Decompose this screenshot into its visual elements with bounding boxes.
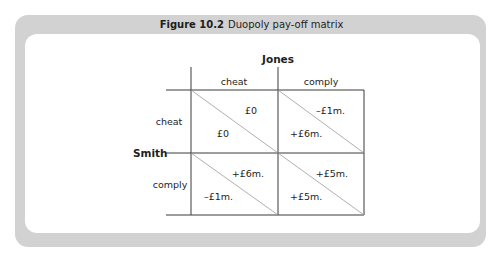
payoff-smith-cheat-comply: +£6m. — [290, 128, 322, 139]
cell-diagonal — [191, 90, 278, 153]
row-player-label: Smith — [133, 147, 168, 159]
cell-diagonal — [191, 153, 278, 215]
column-strategy-comply: comply — [304, 76, 339, 87]
cell-diagonal — [278, 153, 364, 215]
payoff-smith-comply-cheat: –£1m. — [204, 191, 233, 202]
payoff-jones-cheat-cheat: £0 — [245, 105, 257, 116]
payoff-smith-cheat-cheat: £0 — [217, 128, 229, 139]
payoff-matrix: Jones Smith cheat comply cheat comply £0… — [0, 0, 503, 263]
payoff-jones-cheat-comply: –£1m. — [316, 105, 345, 116]
payoff-jones-comply-cheat: +£6m. — [232, 168, 264, 179]
column-player-label: Jones — [261, 53, 294, 65]
column-strategy-cheat: cheat — [221, 76, 248, 87]
payoff-jones-comply-comply: +£5m. — [316, 168, 348, 179]
cell-diagonal — [278, 90, 364, 153]
row-strategy-cheat: cheat — [156, 116, 183, 127]
row-strategy-comply: comply — [153, 179, 188, 190]
payoff-smith-comply-comply: +£5m. — [290, 191, 322, 202]
